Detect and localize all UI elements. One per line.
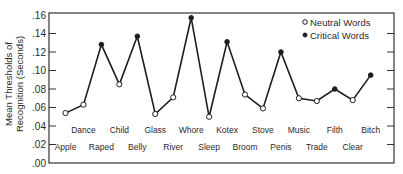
critical-word-marker (189, 15, 194, 20)
neutral-word-marker (171, 95, 176, 100)
y-tick-label: .04 (32, 121, 46, 132)
critical-word-marker (135, 34, 140, 39)
critical-word-marker (99, 42, 104, 47)
critical-word-marker (279, 50, 284, 55)
y-tick-label: .00 (32, 158, 46, 169)
category-label: Broom (233, 142, 258, 152)
y-tick-label: .08 (32, 84, 46, 95)
neutral-word-marker (314, 98, 319, 103)
critical-word-marker (225, 40, 230, 45)
category-label: Apple (55, 142, 77, 152)
y-tick-label: .02 (32, 139, 46, 150)
neutral-word-marker (153, 111, 158, 116)
y-axis-title-line: Recognition (Seconds) (14, 36, 25, 132)
neutral-word-marker (260, 106, 265, 111)
legend-label: Neutral Words (310, 17, 371, 28)
neutral-word-marker (117, 82, 122, 87)
category-label: River (163, 142, 183, 152)
category-label: Whore (179, 125, 204, 135)
category-label: Bitch (361, 125, 380, 135)
legend-label: Critical Words (310, 30, 369, 41)
y-tick-label: .16 (32, 10, 46, 21)
neutral-word-marker (63, 110, 68, 115)
category-label: Music (288, 125, 311, 135)
critical-word-marker (368, 73, 373, 78)
y-tick-label: .12 (32, 47, 46, 58)
category-label: Trade (306, 142, 328, 152)
category-label: Child (110, 125, 130, 135)
legend: Neutral WordsCritical Words (303, 17, 371, 41)
line-chart: Mean Thresholds ofRecognition (Seconds) … (0, 0, 403, 174)
neutral-word-marker (242, 92, 247, 97)
neutral-word-marker (81, 102, 86, 107)
category-label: Clear (343, 142, 363, 152)
category-label: Glass (144, 125, 166, 135)
category-label: Sleep (198, 142, 220, 152)
y-axis-title: Mean Thresholds ofRecognition (Seconds) (3, 36, 25, 132)
y-tick-label: .06 (32, 102, 46, 113)
legend-filled-circle-icon (303, 33, 307, 37)
y-tick-label: .14 (32, 28, 46, 39)
category-label: Penis (270, 142, 291, 152)
neutral-word-marker (207, 114, 212, 119)
y-axis-title-line: Mean Thresholds of (3, 42, 14, 126)
y-tick-label: .10 (32, 65, 46, 76)
legend-open-circle-icon (303, 20, 308, 25)
category-label: Dance (71, 125, 96, 135)
category-label: Stove (252, 125, 274, 135)
critical-word-marker (332, 87, 337, 92)
neutral-word-marker (296, 96, 301, 101)
category-label: Filth (327, 125, 343, 135)
category-label: Belly (128, 142, 147, 152)
category-label: Raped (89, 142, 114, 152)
category-label: Kotex (216, 125, 238, 135)
x-category-labels: AppleDanceRapedChildBellyGlassRiverWhore… (55, 125, 381, 152)
neutral-word-marker (350, 98, 355, 103)
